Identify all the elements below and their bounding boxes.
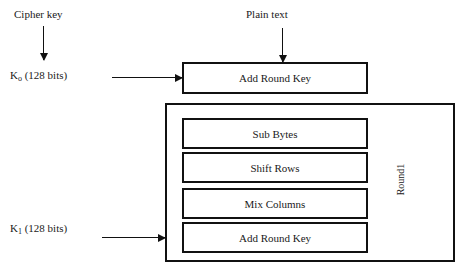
key-0-name: K	[10, 69, 18, 81]
key-1-arrow	[102, 237, 165, 238]
cipher-key-label: Cipher key	[14, 8, 63, 21]
round-step-sub-bytes-label: Sub Bytes	[253, 128, 298, 140]
round-step-shift-rows[interactable]: Shift Rows	[182, 152, 368, 183]
key-0-arrow	[112, 77, 182, 78]
plain-text-arrow	[282, 28, 283, 62]
cipher-key-arrow	[43, 26, 44, 60]
round-1-label: Round1	[395, 155, 406, 205]
round-step-shift-rows-label: Shift Rows	[250, 162, 299, 174]
key-0-subscript: o	[18, 74, 22, 83]
key-0-label: Ko (128 bits)	[10, 69, 67, 83]
plain-text-label: Plain text	[246, 8, 288, 21]
round-step-sub-bytes[interactable]: Sub Bytes	[182, 118, 368, 149]
initial-add-round-key-label: Add Round Key	[239, 72, 311, 84]
round-step-mix-columns[interactable]: Mix Columns	[182, 188, 368, 219]
round-step-add-round-key[interactable]: Add Round Key	[182, 222, 368, 253]
key-1-bits: (128 bits)	[25, 222, 67, 234]
key-1-name: K	[10, 222, 18, 234]
aes-round-diagram: Cipher key Ko (128 bits) Plain text Add …	[0, 0, 468, 279]
round-step-mix-columns-label: Mix Columns	[245, 198, 306, 210]
key-1-label: K1 (128 bits)	[10, 222, 67, 236]
key-1-subscript: 1	[18, 227, 22, 236]
round-step-add-round-key-label: Add Round Key	[239, 232, 311, 244]
key-0-bits: (128 bits)	[25, 69, 67, 81]
initial-add-round-key-box[interactable]: Add Round Key	[182, 62, 368, 94]
